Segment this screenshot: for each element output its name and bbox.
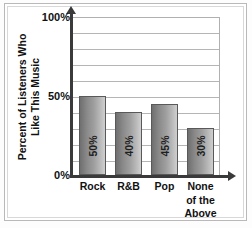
bar-rnb-value: 40% (123, 135, 135, 156)
bar-none-of-the-above[interactable]: 30% (187, 128, 214, 175)
gridline-80 (73, 49, 219, 50)
bar-rnb-value-holder: 40% (116, 124, 141, 168)
bar-pop-value-holder: 45% (152, 124, 177, 168)
gridline-90 (73, 33, 219, 34)
y-tick-100: 100% (30, 11, 70, 23)
x-tick-none-of-the-above: None of the Above (177, 180, 224, 221)
x-tick-none-line-1: None (177, 180, 224, 194)
bar-none-value: 30% (195, 135, 207, 156)
y-axis-line (70, 12, 73, 177)
y-axis-tick-labels: 100% 50% 0% (26, 0, 70, 228)
bar-pop[interactable]: 45% (151, 104, 178, 175)
chart-figure: Percent of Listeners Who Like This Music… (0, 0, 252, 228)
gridline-60 (73, 81, 219, 82)
gridline-70 (73, 65, 219, 66)
bar-rnb[interactable]: 40% (115, 112, 142, 175)
bar-none-value-holder: 30% (188, 124, 213, 168)
bar-rock[interactable]: 50% (79, 96, 106, 175)
bar-pop-value: 45% (159, 135, 171, 156)
x-axis-line (70, 175, 229, 178)
x-tick-none-line-2: of the (177, 194, 224, 208)
bar-rock-value: 50% (87, 135, 99, 156)
x-axis-arrow-icon (228, 171, 236, 181)
y-tick-0: 0% (30, 169, 70, 181)
x-tick-none-line-3: Above (177, 207, 224, 221)
x-axis-tick-labels: Rock R&B Pop None of the Above (73, 180, 220, 226)
plot-area: 50% 40% 45% 30% (73, 17, 220, 175)
bar-rock-value-holder: 50% (80, 124, 105, 168)
y-tick-50: 50% (30, 90, 70, 102)
